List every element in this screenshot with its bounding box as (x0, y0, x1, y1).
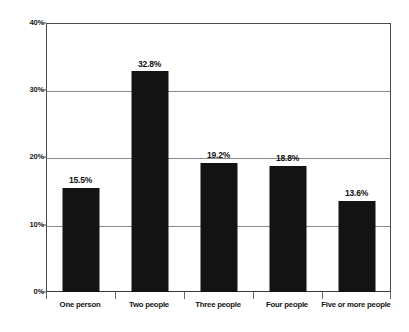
bar-value-label: 19.2% (207, 151, 230, 160)
x-axis-label-three-people: Three people (195, 301, 241, 310)
x-axis-tick-mark-2 (184, 292, 185, 299)
bar-slot-3: 18.8% (253, 23, 322, 292)
y-axis-tick-label-40: 40% (0, 19, 44, 27)
x-axis-tick-mark-1 (115, 292, 116, 299)
y-axis-tick-label-10: 10% (0, 221, 44, 229)
bar[interactable] (269, 166, 306, 292)
bar[interactable] (338, 201, 375, 292)
bar[interactable] (62, 188, 99, 292)
x-axis-label-four-people: Four people (266, 301, 308, 310)
bar[interactable] (200, 163, 237, 292)
bar-slot-0: 15.5% (46, 23, 115, 292)
x-axis-tick-mark-0 (46, 292, 47, 299)
bar-slot-2: 19.2% (184, 23, 253, 292)
y-axis-tick-label-20: 20% (0, 153, 44, 161)
bar-value-label: 32.8% (138, 60, 161, 69)
y-axis-tick-label-30: 30% (0, 86, 44, 94)
bars-layer: 15.5% 32.8% 19.2% 18.8% 13.6% (46, 23, 391, 292)
x-axis-label-two-people: Two people (129, 301, 169, 310)
y-axis-tick-label-0: 0% (0, 288, 44, 296)
bar-value-label: 15.5% (69, 176, 92, 185)
x-axis-tick-mark-4 (322, 292, 323, 299)
bar-slot-4: 13.6% (322, 23, 391, 292)
x-axis-tick-mark-3 (253, 292, 254, 299)
x-axis-label-one-person: One person (60, 301, 101, 310)
x-axis-tick-mark-5 (390, 292, 391, 299)
bar-chart: 40% 30% 20% 10% 0% 15.5% 32.8% 19.2% 18.… (0, 0, 409, 332)
x-axis-label-five-or-more-people: Five or more people (321, 301, 390, 310)
bar-value-label: 18.8% (276, 154, 299, 163)
bar-value-label: 13.6% (345, 189, 368, 198)
bar[interactable] (131, 71, 168, 292)
bar-slot-1: 32.8% (115, 23, 184, 292)
